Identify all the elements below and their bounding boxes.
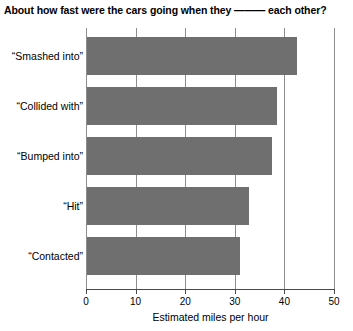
bar-smashed-into[interactable] <box>86 37 297 75</box>
bar-hit[interactable] <box>86 187 249 225</box>
bar-collided-with[interactable] <box>86 87 277 125</box>
x-tick-label-30: 30 <box>220 296 250 307</box>
x-tick-label-50: 50 <box>319 296 349 307</box>
x-axis-title: Estimated miles per hour <box>86 311 335 323</box>
bar-contacted[interactable] <box>86 237 240 275</box>
x-tick-label-0: 0 <box>71 296 101 307</box>
category-label-hit: “Hit” <box>1 200 83 212</box>
x-axis-line <box>86 289 335 290</box>
x-tick-0 <box>86 289 87 294</box>
x-tick-label-40: 40 <box>269 296 299 307</box>
bar-chart-figure: About how fast were the cars going when … <box>0 0 353 331</box>
x-tick-50 <box>334 289 335 294</box>
x-tick-20 <box>185 289 186 294</box>
category-label-smashed-into: “Smashed into” <box>1 50 83 62</box>
x-tick-40 <box>284 289 285 294</box>
gridline-50 <box>334 28 335 289</box>
category-label-collided-with: “Collided with” <box>1 100 83 112</box>
y-axis-line <box>86 28 87 290</box>
x-tick-30 <box>235 289 236 294</box>
chart-title: About how fast were the cars going when … <box>4 3 352 17</box>
category-label-contacted: “Contacted” <box>1 250 83 262</box>
x-tick-label-10: 10 <box>121 296 151 307</box>
bar-bumped-into[interactable] <box>86 137 272 175</box>
category-labels: “Smashed into” “Collided with” “Bumped i… <box>0 28 83 289</box>
x-tick-10 <box>136 289 137 294</box>
category-label-bumped-into: “Bumped into” <box>1 150 83 162</box>
x-tick-label-20: 20 <box>170 296 200 307</box>
plot-area <box>86 28 334 289</box>
